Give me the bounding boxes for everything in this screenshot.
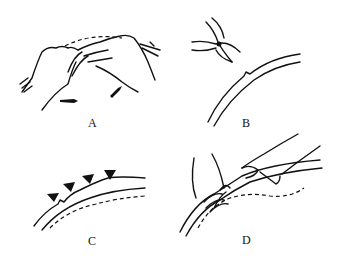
panel-a: A bbox=[0, 0, 170, 132]
panel-label-a: A bbox=[88, 116, 97, 131]
panel-c: C bbox=[0, 132, 170, 265]
notched-strip-with-markers-illustration bbox=[0, 132, 170, 265]
hands-bending-rod-illustration bbox=[0, 0, 170, 132]
pliers-notching-strip-illustration bbox=[170, 0, 341, 132]
panel-label-c: C bbox=[88, 234, 96, 249]
panel-label-b: B bbox=[242, 116, 250, 131]
panel-label-d: D bbox=[242, 233, 251, 248]
panel-d: D bbox=[170, 132, 341, 265]
hands-wrapping-wire-illustration bbox=[170, 132, 341, 265]
panel-b: B bbox=[170, 0, 341, 132]
